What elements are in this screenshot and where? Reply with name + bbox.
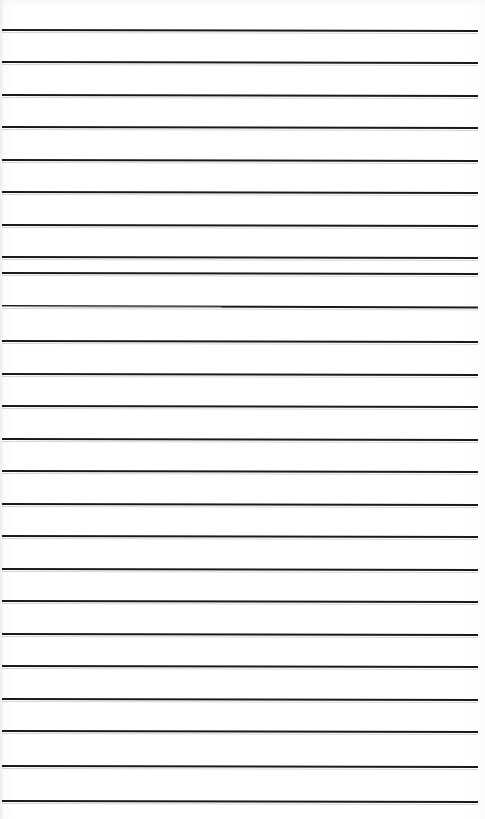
rule-line bbox=[2, 340, 478, 343]
rule-line bbox=[2, 698, 478, 701]
rule-line bbox=[2, 94, 478, 97]
rule-line bbox=[2, 126, 478, 129]
rule-line bbox=[2, 224, 478, 227]
rule-line bbox=[2, 61, 478, 64]
rule-line bbox=[2, 405, 478, 408]
rule-line bbox=[2, 373, 478, 376]
rule-line bbox=[2, 159, 478, 162]
rule-line bbox=[2, 800, 478, 803]
rule-line bbox=[2, 503, 478, 506]
rule-line bbox=[2, 29, 478, 32]
rule-line bbox=[2, 765, 478, 768]
rule-line bbox=[2, 665, 478, 668]
rule-line bbox=[2, 568, 478, 571]
rule-line bbox=[2, 272, 478, 275]
scanned-page bbox=[0, 0, 485, 819]
rule-line bbox=[2, 438, 478, 441]
rule-line bbox=[2, 305, 478, 309]
rule-line bbox=[2, 600, 478, 603]
rule-line bbox=[2, 191, 478, 194]
rule-line bbox=[2, 470, 478, 473]
rule-line bbox=[2, 535, 478, 538]
rule-line bbox=[2, 730, 478, 733]
rule-line bbox=[2, 633, 478, 636]
rule-line bbox=[2, 256, 478, 259]
